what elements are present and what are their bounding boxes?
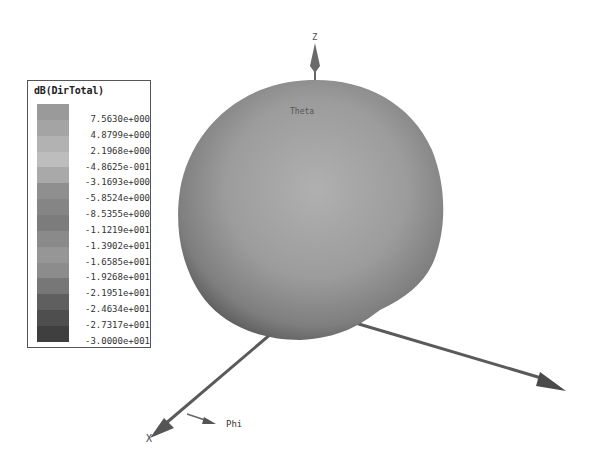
legend-swatch (37, 263, 69, 279)
legend-swatch (37, 231, 69, 247)
z-axis-label: Z (312, 32, 318, 42)
theta-label: Theta (290, 107, 314, 116)
legend-label: -4.8625e-001 (72, 160, 150, 176)
legend-label: -3.0000e+001 (72, 334, 150, 350)
legend-swatch (37, 326, 69, 342)
legend-swatch (37, 152, 69, 168)
legend-swatch (37, 310, 69, 326)
legend-label: -1.3902e+001 (72, 239, 150, 255)
x-axis-label: X (146, 433, 152, 444)
legend-label: -1.6585e+001 (72, 255, 150, 271)
legend-swatch (37, 120, 69, 136)
legend-color-bar (37, 104, 69, 342)
legend-label: -8.5355e+000 (72, 207, 150, 223)
legend-labels: 7.5630e+000 4.8799e+000 2.1968e+000 -4.8… (72, 112, 150, 350)
legend-swatch (37, 278, 69, 294)
legend-label: 7.5630e+000 (72, 112, 150, 128)
legend-swatch (37, 167, 69, 183)
legend-label: -1.9268e+001 (72, 270, 150, 286)
legend-label: -2.1951e+001 (72, 286, 150, 302)
z-axis-arrowhead-icon (310, 43, 320, 73)
z-axis: Z (310, 32, 320, 80)
y-axis-arrowhead-icon (536, 372, 566, 391)
legend-swatch (37, 294, 69, 310)
legend-label: -2.4634e+001 (72, 302, 150, 318)
legend-label: -5.8524e+000 (72, 191, 150, 207)
legend-label: -1.1219e+001 (72, 223, 150, 239)
phi-arrow: Phi (187, 414, 242, 429)
radiation-pattern-surface (178, 80, 443, 340)
phi-arrowhead-icon (202, 417, 216, 424)
y-axis (352, 322, 566, 391)
legend-swatch (37, 247, 69, 263)
legend-swatch (37, 104, 69, 120)
legend-label: 4.8799e+000 (72, 128, 150, 144)
legend-title: dB(DirTotal) (34, 85, 104, 96)
color-legend: dB(DirTotal) 7.5630e+000 4.8799e+000 2.1… (27, 80, 151, 348)
legend-swatch (37, 183, 69, 199)
legend-label: -3.1693e+000 (72, 175, 150, 191)
legend-swatch (37, 215, 69, 231)
x-axis: X (146, 333, 272, 444)
phi-label: Phi (226, 419, 242, 429)
legend-swatch (37, 136, 69, 152)
legend-swatch (37, 199, 69, 215)
legend-label: 2.1968e+000 (72, 144, 150, 160)
legend-label: -2.7317e+001 (72, 318, 150, 334)
